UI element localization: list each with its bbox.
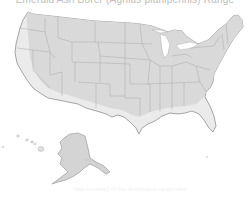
- contiguous-us: [15, 10, 245, 134]
- florida-keys: [206, 156, 208, 158]
- footer-note: Map courtesy of the distribution range d…: [20, 186, 240, 192]
- hawaii-inset: [2, 135, 44, 152]
- alaska-inset: [52, 133, 110, 184]
- range-interior: [26, 10, 245, 117]
- us-map: [0, 0, 250, 199]
